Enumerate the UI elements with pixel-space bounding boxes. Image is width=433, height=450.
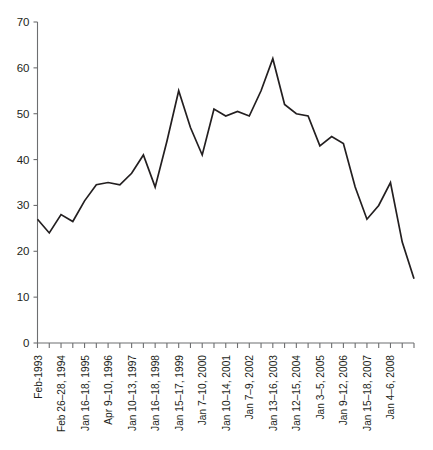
x-tick-label: Feb 26–28, 1994 bbox=[56, 355, 67, 432]
y-tick-label: 0 bbox=[23, 337, 29, 349]
y-tick-label: 40 bbox=[17, 154, 30, 166]
x-tick-label: Jan 4–6, 2008 bbox=[385, 355, 396, 420]
y-tick-label: 30 bbox=[17, 199, 30, 211]
x-tick-label: Jan 3–5, 2005 bbox=[315, 355, 326, 420]
y-axis: 010203040506070 bbox=[17, 16, 38, 349]
x-tick-label: Jan 10–13, 1997 bbox=[127, 355, 138, 431]
x-tick-label: Jan 10–14, 2001 bbox=[221, 355, 232, 431]
x-tick-label: Jan 12–15, 2004 bbox=[291, 355, 302, 431]
x-axis bbox=[38, 343, 415, 348]
y-tick-label: 50 bbox=[17, 108, 30, 120]
chart-canvas: 010203040506070 Feb-1993Feb 26–28, 1994J… bbox=[0, 0, 433, 450]
y-tick-label: 10 bbox=[17, 291, 30, 303]
y-tick-label: 60 bbox=[17, 62, 30, 74]
y-tick-label: 20 bbox=[17, 245, 30, 257]
line-chart: 010203040506070 Feb-1993Feb 26–28, 1994J… bbox=[0, 0, 433, 450]
x-tick-label: Feb-1993 bbox=[33, 355, 44, 399]
x-tick-label: Apr 9–10, 1996 bbox=[103, 355, 114, 425]
y-tick-label: 70 bbox=[17, 16, 30, 28]
x-tick-label: Jan 9–12, 2006 bbox=[338, 355, 349, 426]
x-tick-label: Jan 7–10, 2000 bbox=[197, 355, 208, 426]
x-tick-label: Jan 15–17, 1999 bbox=[174, 355, 185, 431]
x-tick-label-group: Feb-1993Feb 26–28, 1994Jan 16–18, 1995Ap… bbox=[33, 355, 397, 432]
data-line bbox=[38, 59, 415, 279]
x-tick-label: Jan 16–18, 1998 bbox=[150, 355, 161, 431]
x-tick-label: Jan 13–16, 2003 bbox=[268, 355, 279, 431]
x-tick-label: Jan 15–18, 2007 bbox=[362, 355, 373, 431]
data-series-group bbox=[38, 59, 415, 279]
x-tick-label: Jan 7–9, 2002 bbox=[244, 355, 255, 420]
x-tick-label: Jan 16–18, 1995 bbox=[80, 355, 91, 431]
